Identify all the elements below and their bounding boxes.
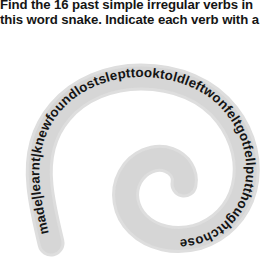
word-snake-figure: made|learnt|knewfoundlostslepttooktoldle… [0, 40, 270, 269]
worksheet-page: Find the 16 past simple irregular verbs … [0, 0, 270, 269]
instructions-line-1: Find the 16 past simple irregular verbs … [0, 0, 270, 12]
instructions-text: Find the 16 past simple irregular verbs … [0, 0, 270, 28]
instructions-line-2: this word snake. Indicate each verb with… [0, 12, 270, 27]
word-snake-svg: made|learnt|knewfoundlostslepttooktoldle… [0, 40, 270, 269]
